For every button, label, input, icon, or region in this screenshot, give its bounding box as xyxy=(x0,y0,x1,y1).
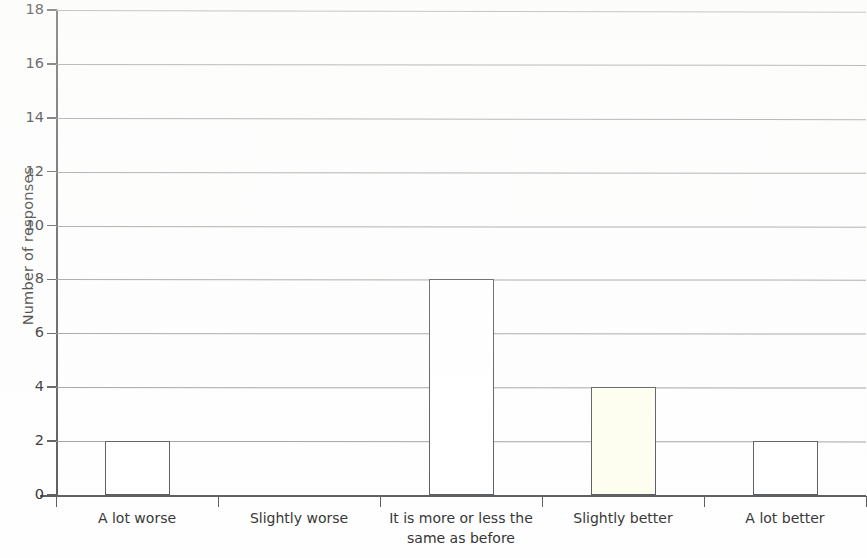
x-tick-2 xyxy=(380,496,381,507)
x-axis-label-text: It is more or less the xyxy=(380,508,542,528)
y-tick-label-10: 10 xyxy=(14,218,44,233)
y-tick-label-4: 4 xyxy=(14,379,44,394)
x-axis-line xyxy=(40,495,866,497)
y-tick-label-18: 18 xyxy=(14,2,44,17)
x-tick-3 xyxy=(542,496,543,507)
bar-3 xyxy=(429,279,494,495)
gridline-12 xyxy=(56,172,866,174)
y-tick-label-2: 2 xyxy=(14,433,44,448)
x-tick-1 xyxy=(218,496,219,507)
bar-1 xyxy=(105,441,170,495)
y-tick-label-6: 6 xyxy=(14,325,44,340)
x-tick-0 xyxy=(56,496,57,507)
y-tick-label-14: 14 xyxy=(14,110,44,125)
x-axis-label-text: A lot better xyxy=(704,508,866,528)
plot-area xyxy=(56,10,866,495)
gridline-14 xyxy=(56,118,866,120)
gridline-18 xyxy=(56,10,866,13)
x-axis-label-1: A lot worse xyxy=(56,508,218,528)
bar-4 xyxy=(591,387,656,495)
x-axis-label-2: Slightly worse xyxy=(218,508,380,528)
x-axis-label-5: A lot better xyxy=(704,508,866,528)
x-axis-label-text: Slightly better xyxy=(542,508,704,528)
gridline-16 xyxy=(56,64,866,66)
y-tick-label-12: 12 xyxy=(14,164,44,179)
x-axis-label-text: Slightly worse xyxy=(218,508,380,528)
y-tick-label-16: 16 xyxy=(14,56,44,71)
y-tick-label-0: 0 xyxy=(14,487,44,502)
bar-chart: Number of responses 024681012141618 A lo… xyxy=(0,0,867,558)
x-axis-label-3: It is more or less thesame as before xyxy=(380,508,542,548)
bar-5 xyxy=(753,441,818,495)
x-axis-label-text: same as before xyxy=(380,528,542,548)
y-tick-label-8: 8 xyxy=(14,271,44,286)
gridline-10 xyxy=(56,226,866,228)
x-axis-label-text: A lot worse xyxy=(56,508,218,528)
x-tick-4 xyxy=(704,496,705,507)
x-axis-label-4: Slightly better xyxy=(542,508,704,528)
